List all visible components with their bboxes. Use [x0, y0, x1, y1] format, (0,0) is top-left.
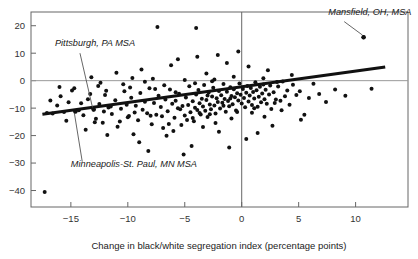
data-point: [173, 116, 177, 120]
data-point: [203, 109, 207, 113]
data-point: [267, 92, 271, 96]
data-point: [195, 55, 199, 59]
data-point: [212, 78, 216, 82]
data-point: [48, 98, 52, 102]
data-point: [155, 25, 159, 29]
data-point: [128, 86, 132, 90]
data-point: [186, 103, 190, 107]
data-point: [183, 78, 187, 82]
data-point: [152, 101, 156, 105]
data-point: [273, 101, 277, 105]
data-point: [237, 81, 241, 85]
data-point: [299, 118, 303, 122]
data-point: [191, 99, 195, 103]
data-point: [231, 102, 235, 106]
data-point: [261, 76, 265, 80]
data-point: [64, 119, 68, 123]
data-point: [151, 77, 155, 81]
y-tick-label: −40: [9, 185, 25, 196]
data-point: [224, 110, 228, 114]
data-point: [256, 131, 260, 135]
data-point: [221, 82, 225, 86]
data-point: [240, 101, 244, 105]
data-point: [110, 112, 114, 116]
data-point: [227, 104, 231, 108]
data-point: [167, 122, 171, 126]
data-point: [317, 92, 321, 96]
data-point: [161, 126, 165, 130]
data-point: [165, 134, 169, 138]
data-point: [214, 112, 218, 116]
data-point: [239, 93, 243, 97]
data-point: [227, 145, 231, 149]
data-point: [214, 121, 218, 125]
data-point: [221, 104, 225, 108]
y-tick-label: −20: [9, 130, 25, 141]
data-point: [166, 109, 170, 113]
plot-canvas: 20100−10−20−30−40 −15−10−50510 Mansfield…: [0, 0, 418, 259]
data-point: [343, 94, 347, 98]
y-tick-label: 10: [14, 48, 25, 59]
data-point: [146, 149, 150, 153]
data-point: [311, 82, 315, 86]
annotation-label: Mansfield, OH, MSA: [328, 7, 411, 17]
data-point: [113, 98, 117, 102]
data-point: [247, 100, 251, 104]
data-point: [96, 84, 100, 88]
data-point: [145, 111, 149, 115]
data-point: [126, 115, 130, 119]
y-tick-label: −30: [9, 157, 25, 168]
data-point: [307, 96, 311, 100]
data-point: [67, 100, 71, 104]
data-point: [266, 68, 270, 72]
data-point: [233, 95, 237, 99]
data-point: [178, 107, 182, 111]
data-point: [208, 112, 212, 116]
data-point: [89, 75, 93, 79]
data-point: [256, 105, 260, 109]
data-point: [180, 104, 184, 108]
data-point: [57, 85, 61, 89]
data-point: [147, 86, 151, 90]
data-point: [298, 89, 302, 93]
data-point: [137, 140, 141, 144]
data-point: [244, 91, 248, 95]
annotation-label: Pittsburgh, PA MSA: [55, 38, 135, 48]
data-point: [209, 107, 213, 111]
data-point: [174, 90, 178, 94]
data-point: [255, 88, 259, 92]
data-point: [206, 93, 210, 97]
data-point: [176, 57, 180, 61]
data-point: [276, 84, 280, 88]
data-point: [223, 97, 227, 101]
data-point: [202, 83, 206, 87]
data-point: [259, 100, 263, 104]
data-point: [216, 53, 220, 57]
data-point: [154, 113, 158, 117]
x-tick-label: 0: [239, 213, 244, 224]
data-point: [104, 89, 108, 93]
annotated-data-point: [91, 107, 95, 111]
data-point: [269, 107, 273, 111]
data-point: [179, 123, 183, 127]
data-point: [229, 117, 233, 121]
data-point: [210, 95, 214, 99]
data-point: [278, 99, 282, 103]
data-point: [219, 93, 223, 97]
data-point: [235, 91, 239, 95]
data-point: [118, 120, 122, 124]
y-tick-label: −10: [9, 103, 25, 114]
data-point: [236, 50, 240, 54]
data-point: [150, 122, 154, 126]
data-point: [79, 101, 83, 105]
data-point: [191, 116, 195, 120]
data-point: [193, 81, 197, 85]
data-point: [333, 87, 337, 91]
data-point: [201, 104, 205, 108]
data-point: [81, 113, 85, 117]
data-point: [160, 114, 164, 118]
data-point: [102, 109, 106, 113]
x-tick-label: −5: [179, 213, 190, 224]
data-point: [139, 67, 143, 71]
data-point: [283, 94, 287, 98]
